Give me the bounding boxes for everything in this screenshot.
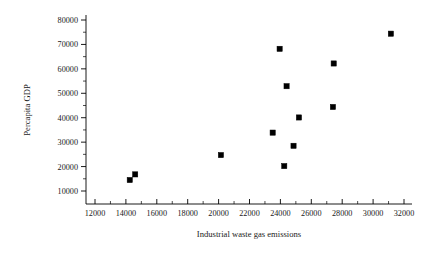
data-point [296,115,301,120]
x-tick-label: 18000 [177,209,197,218]
data-point [270,130,275,135]
x-tick-label: 28000 [332,209,352,218]
data-point [282,163,287,168]
x-tick-label: 30000 [363,209,383,218]
x-axis-tick-labels: 1200014000160001800020000220002400026000… [85,209,414,218]
x-tick-label: 26000 [301,209,321,218]
y-tick-label: 60000 [58,65,78,74]
y-tick-label: 80000 [58,16,78,25]
data-point [133,172,138,177]
data-point [330,104,335,109]
x-tick-label: 12000 [85,209,105,218]
x-tick-label: 22000 [239,209,259,218]
y-tick-label: 20000 [58,163,78,172]
x-tick-label: 20000 [208,209,228,218]
y-tick-label: 40000 [58,114,78,123]
data-point [284,84,289,89]
y-tick-label: 30000 [58,138,78,147]
data-point [127,177,132,182]
data-point [388,31,393,36]
y-axis-title: Percapita GDP [22,84,32,136]
x-tick-label: 14000 [116,209,136,218]
y-tick-label: 70000 [58,40,78,49]
scatter-plot-svg: 1000020000300004000050000600007000080000… [0,0,436,255]
data-point [331,61,336,66]
y-tick-label: 50000 [58,89,78,98]
x-axis-title: Industrial waste gas emissions [197,229,302,239]
y-tick-label: 10000 [58,187,78,196]
data-point [218,152,223,157]
x-tick-label: 32000 [394,209,414,218]
data-point [277,46,282,51]
x-tick-label: 16000 [147,209,167,218]
chart-figure: 1000020000300004000050000600007000080000… [0,0,436,255]
x-tick-label: 24000 [270,209,290,218]
data-point [291,143,296,148]
